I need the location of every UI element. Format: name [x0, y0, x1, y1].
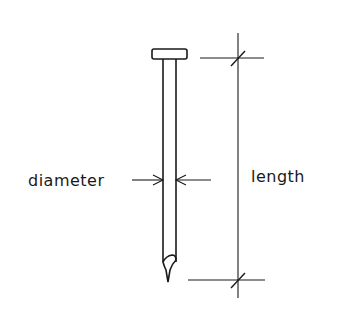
nail-drawing — [152, 49, 187, 282]
nail-tip — [163, 255, 176, 282]
length-label: length — [251, 167, 305, 186]
diameter-dimension — [132, 175, 211, 185]
diameter-label: diameter — [28, 171, 105, 190]
nail-dimension-diagram: diameter length — [0, 0, 339, 316]
length-dimension — [188, 33, 265, 298]
nail-head — [152, 49, 187, 59]
